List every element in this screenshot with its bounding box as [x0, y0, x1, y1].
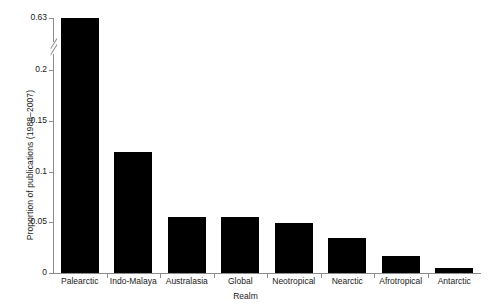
bar: [168, 217, 206, 273]
y-axis-line: [53, 18, 54, 273]
y-tick-label: 0: [17, 267, 47, 277]
plot-area: 00.050.10.150.20.63: [53, 10, 481, 273]
bar-chart: Proportion of publications (1988–2007) 0…: [0, 0, 491, 305]
bar: [221, 217, 259, 273]
y-tick-label: 0.1: [17, 166, 47, 176]
y-tick: [49, 121, 54, 122]
y-tick-label: 0.05: [17, 216, 47, 226]
bar: [435, 268, 473, 273]
x-tick-label: Antarctic: [428, 276, 482, 286]
bar: [382, 256, 420, 273]
x-tick-label: Global: [214, 276, 268, 286]
bar: [61, 18, 99, 273]
y-tick: [49, 70, 54, 71]
x-tick-label: Australasia: [160, 276, 214, 286]
x-tick-label: Neotropical: [267, 276, 321, 286]
y-tick: [49, 18, 54, 19]
y-tick-label: 0.2: [17, 64, 47, 74]
x-tick-labels: PalearcticIndo-MalayaAustralasiaGlobalNe…: [53, 276, 481, 290]
x-axis-title: Realm: [0, 291, 491, 301]
y-tick: [49, 222, 54, 223]
y-tick-label: 0.63: [17, 12, 47, 22]
y-tick: [49, 273, 54, 274]
x-tick-label: Palearctic: [53, 276, 107, 286]
x-tick-label: Nearctic: [321, 276, 375, 286]
bar: [275, 223, 313, 273]
x-tick-label: Afrotropical: [374, 276, 428, 286]
bar: [328, 238, 366, 273]
y-tick-labels: 00.050.10.150.20.63: [17, 10, 47, 273]
x-tick-label: Indo-Malaya: [107, 276, 161, 286]
axis-break-marker: [48, 38, 60, 56]
y-tick-label: 0.15: [17, 115, 47, 125]
y-tick: [49, 172, 54, 173]
bar: [114, 152, 152, 273]
